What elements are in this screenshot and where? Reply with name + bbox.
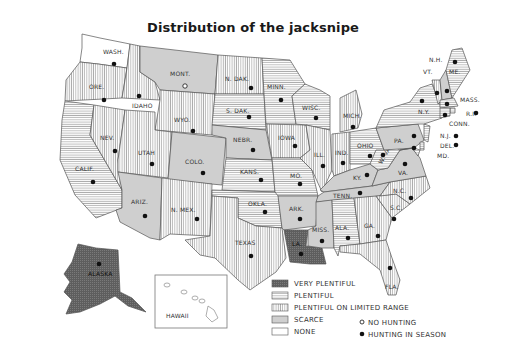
svg-text:MISS.: MISS. (312, 226, 329, 233)
svg-text:ILL.: ILL. (314, 151, 325, 158)
svg-text:WYO.: WYO. (174, 116, 190, 123)
svg-text:PA.: PA. (394, 137, 404, 144)
svg-text:WASH.: WASH. (103, 48, 124, 55)
state-wyo[interactable]: WYO. (155, 90, 215, 135)
state-ark[interactable]: ARK. (278, 196, 318, 230)
svg-text:MD.: MD. (437, 152, 449, 159)
svg-text:TENN.: TENN. (332, 192, 352, 199)
svg-text:HUNTING IN SEASON: HUNTING IN SEASON (368, 331, 446, 339)
us-map: WASH. ORE. CALIF. IDAHO NEV. MONT. WYO. … (0, 0, 506, 358)
legend-no-hunting: NO HUNTING (360, 319, 417, 327)
svg-text:GA.: GA. (364, 222, 375, 229)
state-pa[interactable]: PA. (376, 124, 424, 150)
legend-plentiful: PLENTIFUL (272, 292, 334, 300)
svg-text:NO HUNTING: NO HUNTING (368, 319, 417, 327)
svg-text:HAWAII: HAWAII (166, 312, 189, 319)
state-n-dak[interactable]: N. DAK. (215, 55, 264, 94)
svg-text:OKLA.: OKLA. (248, 200, 267, 207)
svg-text:VT.: VT. (423, 68, 433, 75)
svg-text:NEV.: NEV. (100, 134, 114, 141)
state-ore[interactable]: ORE. (65, 62, 127, 102)
svg-text:CONN.: CONN. (449, 120, 470, 127)
state-del[interactable]: DEL. (420, 142, 458, 150)
state-ariz[interactable]: ARIZ. (116, 172, 162, 240)
svg-text:COLO.: COLO. (185, 158, 204, 165)
svg-text:IND.: IND. (335, 149, 349, 156)
svg-text:ME.: ME. (449, 68, 460, 75)
svg-text:ARK.: ARK. (289, 205, 304, 212)
svg-text:KY.: KY. (353, 174, 362, 181)
svg-text:MINN.: MINN. (267, 83, 286, 90)
state-n-y[interactable]: N.Y. (376, 84, 442, 128)
svg-text:N.C.: N.C. (393, 187, 406, 194)
svg-text:PLENTIFUL ON LIMITED RANGE: PLENTIFUL ON LIMITED RANGE (294, 304, 409, 312)
svg-text:N. DAK.: N. DAK. (225, 75, 249, 82)
svg-text:TEXAS: TEXAS (234, 239, 255, 246)
hawaii-inset[interactable]: HAWAII (155, 275, 227, 328)
state-mich[interactable]: MICH. (340, 90, 362, 132)
state-s-dak[interactable]: S. DAK. (212, 94, 266, 130)
svg-text:LA.: LA. (292, 240, 302, 247)
legend-limited: PLENTIFUL ON LIMITED RANGE (272, 304, 409, 312)
svg-text:DEL.: DEL. (440, 142, 454, 149)
svg-text:N. MEX.: N. MEX. (171, 206, 196, 213)
svg-text:ALA.: ALA. (335, 224, 349, 231)
svg-text:N.Y.: N.Y. (418, 108, 430, 115)
state-n-mex[interactable]: N. MEX. (160, 178, 212, 240)
svg-text:SCARCE: SCARCE (294, 316, 324, 324)
svg-text:CALIF.: CALIF. (75, 165, 94, 172)
svg-text:IDAHO: IDAHO (132, 102, 153, 109)
svg-text:MASS.: MASS. (460, 96, 480, 103)
state-colo[interactable]: COLO. (168, 132, 226, 185)
state-alaska[interactable]: ALASKA (64, 244, 146, 314)
svg-text:N.H.: N.H. (429, 56, 443, 63)
svg-text:S.C.: S.C. (390, 204, 403, 211)
svg-text:FLA.: FLA. (385, 283, 399, 290)
legend-very-plentiful: VERY PLENTIFUL (272, 280, 356, 288)
svg-text:NONE: NONE (294, 328, 316, 336)
svg-text:MICH.: MICH. (343, 112, 361, 119)
svg-text:ALASKA: ALASKA (88, 270, 113, 277)
svg-text:PLENTIFUL: PLENTIFUL (294, 292, 334, 300)
state-wisc[interactable]: WISC. (292, 84, 330, 130)
state-r-i[interactable]: R.I. (450, 108, 478, 117)
svg-text:VA.: VA. (398, 169, 408, 176)
svg-text:VERY PLENTIFUL: VERY PLENTIFUL (294, 280, 356, 288)
legend-none: NONE (272, 328, 316, 336)
state-kans[interactable]: KANS. (222, 158, 275, 192)
svg-text:S. DAK.: S. DAK. (226, 107, 249, 114)
svg-text:N.J.: N.J. (440, 132, 451, 140)
svg-text:MO.: MO. (290, 172, 302, 179)
legend-scarce: SCARCE (272, 316, 324, 324)
svg-text:NEBR.: NEBR. (233, 136, 252, 143)
svg-text:ORE.: ORE. (89, 83, 104, 90)
legend-hunting: HUNTING IN SEASON (360, 331, 447, 339)
svg-text:KANS.: KANS. (240, 168, 259, 175)
svg-text:OHIO: OHIO (357, 142, 374, 149)
svg-text:WISC.: WISC. (302, 104, 321, 111)
legend: VERY PLENTIFUL PLENTIFUL PLENTIFUL ON LI… (272, 280, 446, 339)
state-iowa[interactable]: IOWA (266, 124, 310, 158)
svg-text:UTAH: UTAH (138, 149, 155, 156)
svg-text:MONT.: MONT. (170, 70, 190, 77)
state-ind[interactable]: IND. (332, 132, 350, 176)
svg-text:IOWA: IOWA (278, 134, 296, 141)
svg-text:ARIZ.: ARIZ. (131, 198, 148, 205)
